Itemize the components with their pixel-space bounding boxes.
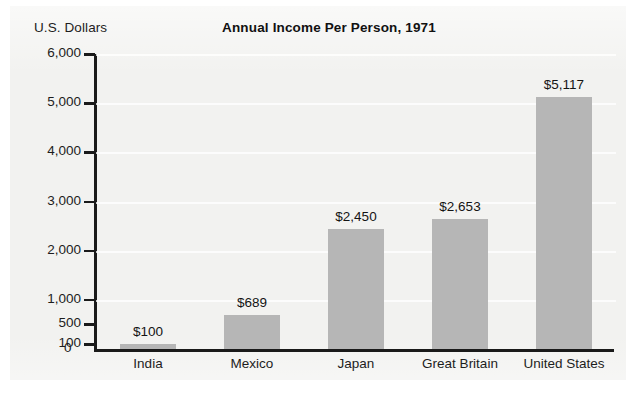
y-tick-label: 6,000 — [47, 45, 81, 60]
bar[interactable] — [224, 315, 280, 349]
bar-value-label: $2,450 — [306, 209, 406, 224]
plot-area: $100$689$2,450$2,653$5,117 — [96, 54, 616, 349]
y-axis-tick — [84, 250, 95, 253]
y-tick-label: 500 — [58, 315, 81, 330]
y-axis-tick — [84, 102, 95, 105]
y-axis-tick — [84, 323, 95, 326]
bar[interactable] — [120, 344, 176, 349]
bar-value-label: $2,653 — [410, 199, 510, 214]
bar-value-label: $100 — [98, 324, 198, 339]
y-tick-label: 1,000 — [47, 291, 81, 306]
bar-value-label: $689 — [202, 295, 302, 310]
y-tick-label: 2,000 — [47, 242, 81, 257]
gridline — [96, 54, 616, 56]
y-tick-label: 100 — [58, 335, 81, 350]
y-tick-label: 5,000 — [47, 94, 81, 109]
bar-value-label: $5,117 — [514, 77, 614, 92]
y-tick-label: 3,000 — [47, 193, 81, 208]
y-axis-tick — [84, 299, 95, 302]
x-category-label: United States — [504, 356, 624, 371]
bar[interactable] — [328, 229, 384, 349]
y-axis-tick — [84, 201, 95, 204]
y-axis-tick — [84, 53, 95, 56]
bar[interactable] — [432, 219, 488, 349]
chart-card: U.S. Dollars Annual Income Per Person, 1… — [10, 6, 626, 380]
y-axis-tick — [84, 151, 95, 154]
bar[interactable] — [536, 97, 592, 349]
x-category-label: Japan — [296, 356, 416, 371]
x-axis-line — [94, 349, 614, 352]
x-category-label: India — [88, 356, 208, 371]
x-category-label: Mexico — [192, 356, 312, 371]
x-category-label: Great Britain — [400, 356, 520, 371]
chart-title: Annual Income Per Person, 1971 — [10, 20, 626, 35]
y-axis-tick — [84, 343, 95, 346]
y-tick-label: 4,000 — [47, 143, 81, 158]
